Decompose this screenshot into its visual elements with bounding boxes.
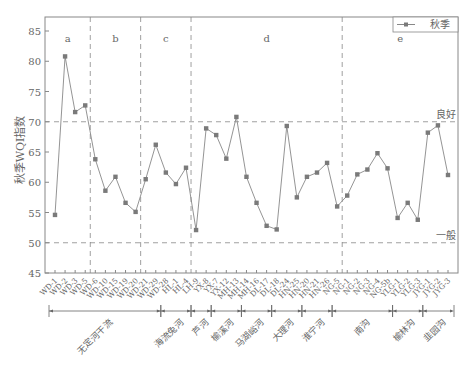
data-point-marker <box>93 157 97 161</box>
section-label: e <box>397 33 403 44</box>
arrow-right-icon <box>237 310 241 313</box>
arrow-right-icon <box>389 310 393 313</box>
legend-marker-icon <box>404 23 408 27</box>
data-point-marker <box>53 213 57 217</box>
plot-border <box>45 17 458 273</box>
data-point-marker <box>395 216 399 220</box>
river-label: 大理河 <box>269 317 296 344</box>
data-point-marker <box>274 227 278 231</box>
section-label: a <box>65 33 71 44</box>
data-point-marker <box>123 201 127 205</box>
arrow-left-icon <box>423 310 427 313</box>
y-tick-label: 50 <box>28 238 41 249</box>
river-brackets: 无定河干流海流兔河芦河榆溪河马湖峪河大理河淮宁河南沟榆林沟韭园沟 <box>49 305 454 356</box>
data-point-marker <box>224 156 228 160</box>
section-dividers: abcde <box>65 17 403 273</box>
data-point-marker <box>365 167 369 171</box>
y-tick-label: 45 <box>28 268 41 279</box>
data-point-marker <box>355 172 359 176</box>
river-label: 无定河干流 <box>75 317 115 357</box>
section-label: d <box>263 33 270 44</box>
y-tick-label: 65 <box>28 147 41 158</box>
data-point-marker <box>405 201 409 205</box>
arrow-left-icon <box>161 310 165 313</box>
data-point-marker <box>234 115 238 119</box>
legend-label: 秋季 <box>430 18 450 30</box>
plot-frame <box>45 17 458 273</box>
data-point-marker <box>436 123 440 127</box>
arrow-right-icon <box>187 310 191 313</box>
reference-line-label: 一般 <box>436 229 456 241</box>
data-point-marker <box>194 228 198 232</box>
river-label: 南沟 <box>351 317 372 338</box>
data-point-marker <box>416 218 420 222</box>
reference-lines: 良好一般 <box>45 108 458 243</box>
data-point-marker <box>83 103 87 107</box>
arrow-left-icon <box>272 310 276 313</box>
data-point-marker <box>375 151 379 155</box>
data-series <box>53 54 450 232</box>
y-tick-label: 85 <box>28 26 41 37</box>
data-point-marker <box>345 193 349 197</box>
river-label: 韭园沟 <box>421 317 448 344</box>
data-point-marker <box>254 201 258 205</box>
arrow-right-icon <box>450 310 454 313</box>
data-point-marker <box>244 175 248 179</box>
river-label: 马湖峪河 <box>233 317 266 350</box>
river-label: 榆林沟 <box>390 317 417 344</box>
y-axis: 455055606570758085 <box>28 26 49 279</box>
data-point-marker <box>264 224 268 228</box>
y-tick-label: 60 <box>28 177 41 188</box>
arrow-left-icon <box>332 310 336 313</box>
data-point-marker <box>184 166 188 170</box>
y-tick-label: 75 <box>28 87 41 98</box>
data-point-marker <box>63 54 67 58</box>
data-point-marker <box>113 175 117 179</box>
arrow-left-icon <box>302 310 306 313</box>
arrow-right-icon <box>207 310 211 313</box>
data-point-marker <box>446 173 450 177</box>
arrow-right-icon <box>328 310 332 313</box>
data-point-marker <box>154 143 158 147</box>
arrow-left-icon <box>393 310 397 313</box>
wqi-line-chart: 良好一般 abcde 455055606570758085 WD-1WD-2WD… <box>0 0 466 365</box>
reference-line-label: 良好 <box>436 108 456 120</box>
legend: 秋季 <box>393 17 458 32</box>
arrow-right-icon <box>298 310 302 313</box>
arrow-right-icon <box>419 310 423 313</box>
arrow-left-icon <box>49 310 53 313</box>
arrow-left-icon <box>191 310 195 313</box>
data-point-marker <box>103 189 107 193</box>
data-point-marker <box>133 210 137 214</box>
y-tick-label: 55 <box>28 208 41 219</box>
data-point-marker <box>426 130 430 134</box>
river-label: 海流兔河 <box>152 317 185 350</box>
series-line <box>55 56 448 230</box>
data-point-marker <box>295 195 299 199</box>
data-point-marker <box>315 170 319 174</box>
section-label: c <box>163 33 169 44</box>
data-point-marker <box>143 177 147 181</box>
data-point-marker <box>335 204 339 208</box>
river-label: 淮宁河 <box>300 317 327 344</box>
data-point-marker <box>164 170 168 174</box>
data-point-marker <box>214 133 218 137</box>
arrow-right-icon <box>268 310 272 313</box>
data-point-marker <box>204 126 208 130</box>
river-label: 榆溪河 <box>209 317 236 344</box>
data-point-marker <box>73 110 77 114</box>
y-axis-label: 秋季WQI指数 <box>13 116 27 185</box>
section-label: b <box>112 33 118 44</box>
data-point-marker <box>385 166 389 170</box>
river-label: 芦河 <box>190 317 211 338</box>
y-tick-label: 80 <box>28 56 41 67</box>
data-point-marker <box>285 124 289 128</box>
x-axis: WD-1WD-2WD-3WD-5WD-6WD-10WD-15WD-19WD-20… <box>38 270 452 301</box>
data-point-marker <box>305 175 309 179</box>
arrow-left-icon <box>211 310 215 313</box>
arrow-left-icon <box>241 310 245 313</box>
data-point-marker <box>174 182 178 186</box>
arrow-right-icon <box>157 310 161 313</box>
data-point-marker <box>325 161 329 165</box>
y-tick-label: 70 <box>28 117 41 128</box>
